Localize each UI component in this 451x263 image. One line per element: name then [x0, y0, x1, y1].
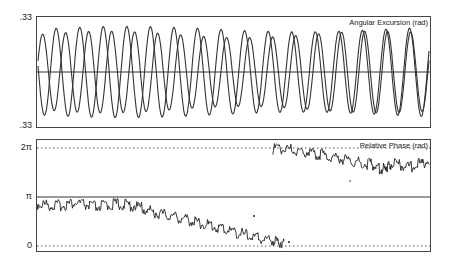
stray-point: [349, 180, 351, 182]
stray-point: [253, 215, 255, 217]
plot-canvas: [0, 0, 451, 263]
relative-phase-series-1: [37, 198, 284, 248]
stray-point: [288, 241, 290, 243]
